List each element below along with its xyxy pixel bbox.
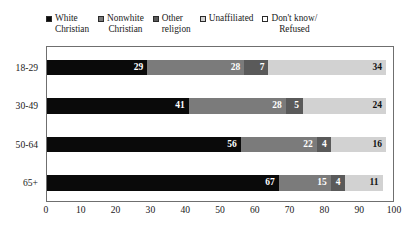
legend-label-line2: Christian — [55, 24, 89, 35]
x-axis-tick-labels: 0102030405060708090100 — [46, 204, 394, 220]
y-axis-label: 18-29 — [16, 62, 38, 73]
bar-segment — [386, 137, 393, 153]
bar-value-label: 11 — [370, 178, 383, 188]
bar-value-label: 29 — [134, 63, 148, 73]
bar-segment: 34 — [268, 60, 386, 76]
legend-item: Don't know/Refused — [262, 13, 317, 34]
chart-title — [0, 0, 413, 1]
legend-swatch-icon — [98, 16, 104, 22]
bar-value-label: 22 — [303, 140, 317, 150]
bar-row: 2928734 — [47, 60, 393, 76]
x-axis-tick-label: 0 — [44, 204, 49, 215]
bar-value-label: 34 — [373, 63, 387, 73]
chart-legend: WhiteChristianNonwhiteChristianOtherreli… — [46, 13, 396, 43]
bar-row: 4128524 — [47, 98, 393, 114]
bar-value-label: 67 — [265, 178, 279, 188]
bar-row: 6715411 — [47, 175, 393, 191]
x-axis-tick-label: 40 — [180, 204, 190, 215]
bar-segment: 28 — [189, 98, 286, 114]
x-axis-tick-label: 60 — [250, 204, 260, 215]
bar-segment — [383, 175, 393, 191]
bar-segment: 41 — [47, 98, 189, 114]
legend-label: Unaffiliated — [209, 13, 254, 24]
y-axis-label: 50-64 — [16, 139, 38, 150]
legend-item: WhiteChristian — [46, 13, 89, 34]
x-axis-tick-label: 10 — [76, 204, 86, 215]
bar-segment: 29 — [47, 60, 147, 76]
legend-label: Otherreligion — [162, 13, 191, 34]
bar-segment: 4 — [317, 137, 331, 153]
legend-swatch-icon — [200, 16, 206, 22]
bar-segment: 24 — [303, 98, 386, 114]
legend-label-line2: Christian — [107, 24, 144, 35]
y-axis-label: 65+ — [23, 177, 38, 188]
bar-segment — [386, 60, 393, 76]
bar-segment: 5 — [286, 98, 303, 114]
bar-value-label: 7 — [260, 63, 269, 73]
bar-segment: 15 — [279, 175, 331, 191]
chart-root: WhiteChristianNonwhiteChristianOtherreli… — [0, 0, 413, 234]
bar-segment: 22 — [241, 137, 317, 153]
legend-label: NonwhiteChristian — [107, 13, 144, 34]
legend-label: WhiteChristian — [55, 13, 89, 34]
bar-segment: 67 — [47, 175, 279, 191]
legend-label-line2: religion — [162, 24, 191, 35]
x-axis-tick-label: 50 — [215, 204, 225, 215]
legend-swatch-icon — [153, 16, 159, 22]
y-axis-category-labels: 18-2930-4950-6465+ — [0, 46, 42, 202]
bar-row: 5622416 — [47, 137, 393, 153]
bar-value-label: 24 — [373, 101, 387, 111]
legend-item: NonwhiteChristian — [98, 13, 144, 34]
legend-label-line2: Refused — [271, 24, 317, 35]
bar-value-label: 15 — [317, 178, 331, 188]
y-axis-label: 30-49 — [16, 100, 38, 111]
x-axis-tick-label: 20 — [111, 204, 121, 215]
bar-value-label: 56 — [227, 140, 241, 150]
bar-value-label: 28 — [272, 101, 286, 111]
bar-segment: 56 — [47, 137, 241, 153]
legend-label: Don't know/Refused — [271, 13, 317, 34]
x-axis-tick-label: 30 — [146, 204, 156, 215]
legend-swatch-icon — [46, 16, 52, 22]
bar-segment: 28 — [147, 60, 244, 76]
legend-item: Otherreligion — [153, 13, 191, 34]
legend-swatch-icon — [262, 16, 268, 22]
bar-value-label: 16 — [373, 140, 387, 150]
bar-segment — [386, 98, 393, 114]
bar-value-label: 4 — [322, 140, 331, 150]
bar-value-label: 5 — [294, 101, 303, 111]
bar-rows: 2928734412852456224166715411 — [47, 47, 393, 201]
x-axis-tick-label: 70 — [285, 204, 295, 215]
plot-area: 2928734412852456224166715411 — [46, 46, 394, 202]
bar-value-label: 28 — [231, 63, 245, 73]
bar-value-label: 41 — [175, 101, 189, 111]
bar-segment: 7 — [244, 60, 268, 76]
x-axis-tick-label: 80 — [320, 204, 330, 215]
legend-item: Unaffiliated — [200, 13, 254, 24]
bar-segment: 16 — [331, 137, 386, 153]
bar-segment: 11 — [345, 175, 383, 191]
x-axis-tick-label: 90 — [354, 204, 364, 215]
bar-segment: 4 — [331, 175, 345, 191]
x-axis-tick-label: 100 — [387, 204, 401, 215]
bar-value-label: 4 — [336, 178, 345, 188]
